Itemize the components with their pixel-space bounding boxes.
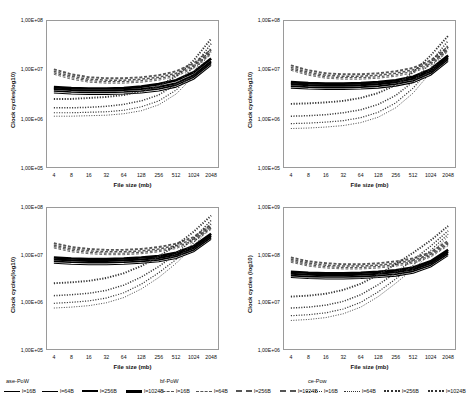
legend-item[interactable]: l=256B — [236, 388, 271, 394]
legend-swatch-icon — [42, 391, 58, 392]
legend-swatch-icon — [384, 390, 400, 392]
series-line — [54, 51, 211, 117]
x-axis-tick: 2048 — [437, 172, 459, 178]
legend-item[interactable]: l=1024B — [428, 388, 466, 394]
series-line — [291, 36, 448, 104]
legend-item[interactable]: l=256B — [82, 388, 117, 394]
chart-panel-j914: J=914Clock cycles (log10)1,00E+061,00E+0… — [237, 193, 473, 378]
legend-swatch-icon — [4, 391, 20, 392]
legend-item-label: l=256B — [100, 388, 117, 394]
legend-swatch-icon — [428, 390, 444, 392]
y-axis-tick: 1,00E+08 — [252, 252, 280, 258]
y-axis-tick: 1,00E+07 — [252, 66, 280, 72]
legend-item-label: l=256B — [254, 388, 271, 394]
y-axis-tick: 1,00E+09 — [252, 204, 280, 210]
y-axis-tick: 1,00E+07 — [15, 66, 43, 72]
legend-group: ce-Powl=16Bl=64Bl=256Bl=1024B — [306, 378, 456, 404]
y-axis-tick: 1,00E+06 — [252, 347, 280, 353]
y-axis-tick: 1,00E+05 — [15, 165, 43, 171]
legend-item[interactable]: l=16B — [4, 388, 36, 394]
y-axis-tick: 1,00E+08 — [15, 17, 43, 23]
legend-swatch-icon — [344, 391, 360, 392]
plot-series-area — [46, 207, 219, 350]
plot-series-area — [283, 207, 456, 350]
series-line — [291, 226, 448, 297]
y-axis-tick: 1,00E+07 — [15, 252, 43, 258]
legend-group-title: ase-PoW — [6, 378, 29, 384]
legend-group-title: ce-Pow — [308, 378, 327, 384]
series-line — [54, 58, 211, 88]
chart-panel-j91: J=91Clock cycles(log10)1,00E+051,00E+061… — [237, 2, 473, 192]
x-axis-label: File size (mb) — [283, 182, 456, 188]
x-axis-tick: 2048 — [437, 354, 459, 360]
legend-item[interactable]: l=64B — [196, 388, 228, 394]
series-line — [54, 225, 211, 250]
legend-group: bf-PoWl=16Bl=64Bl=256Bl=1024B — [158, 378, 308, 404]
chart-legend: ase-PoWl=16Bl=64Bl=256Bl=1024Bbf-PoWl=16… — [0, 378, 473, 412]
legend-swatch-icon — [196, 391, 212, 392]
legend-swatch-icon — [82, 390, 98, 392]
y-axis-tick: 1,00E+05 — [252, 165, 280, 171]
legend-item[interactable]: l=256B — [384, 388, 419, 394]
legend-item-label: l=64B — [362, 388, 376, 394]
series-line — [291, 56, 448, 84]
plot-series-area — [46, 20, 219, 168]
y-axis-tick: 1,00E+07 — [252, 299, 280, 305]
y-axis-tick: 1,00E+06 — [252, 116, 280, 122]
legend-swatch-icon — [280, 390, 296, 392]
legend-item[interactable]: l=64B — [42, 388, 74, 394]
legend-item-label: l=64B — [214, 388, 228, 394]
legend-item[interactable]: l=64B — [344, 388, 376, 394]
legend-item-label: l=16B — [22, 388, 36, 394]
legend-item-label: l=1024B — [446, 388, 466, 394]
x-axis-label: File size (mb) — [46, 182, 219, 188]
y-axis-tick: 1,00E+08 — [252, 17, 280, 23]
legend-item[interactable]: l=16B — [306, 388, 338, 394]
legend-swatch-icon — [306, 391, 322, 392]
legend-item-label: l=64B — [60, 388, 74, 394]
legend-item[interactable]: l=16B — [158, 388, 190, 394]
x-axis-tick: 2048 — [200, 172, 222, 178]
chart-panel-j65: J=65Clock cycles(log10)1,00E+051,00E+061… — [0, 2, 236, 192]
legend-item-label: l=16B — [176, 388, 190, 394]
legend-item-label: l=16B — [324, 388, 338, 394]
legend-group-title: bf-PoW — [160, 378, 179, 384]
y-axis-tick: 1,00E+05 — [15, 347, 43, 353]
x-axis-tick: 2048 — [200, 354, 222, 360]
chart-panel-j182: J=182Clock cycles(log10)1,00E+051,00E+06… — [0, 193, 236, 378]
legend-swatch-icon — [126, 390, 142, 393]
y-axis-tick: 1,00E+08 — [15, 204, 43, 210]
y-axis-tick: 1,00E+06 — [15, 116, 43, 122]
plot-series-area — [283, 20, 456, 168]
legend-item-label: l=256B — [402, 388, 419, 394]
legend-group: ase-PoWl=16Bl=64Bl=256Bl=1024B — [4, 378, 154, 404]
legend-swatch-icon — [236, 390, 252, 392]
figure-root: J=65Clock cycles(log10)1,00E+051,00E+061… — [0, 0, 473, 412]
y-axis-tick: 1,00E+06 — [15, 299, 43, 305]
x-axis-label: File size (mb) — [283, 364, 456, 370]
x-axis-label: File size (mb) — [46, 364, 219, 370]
legend-swatch-icon — [158, 391, 174, 392]
